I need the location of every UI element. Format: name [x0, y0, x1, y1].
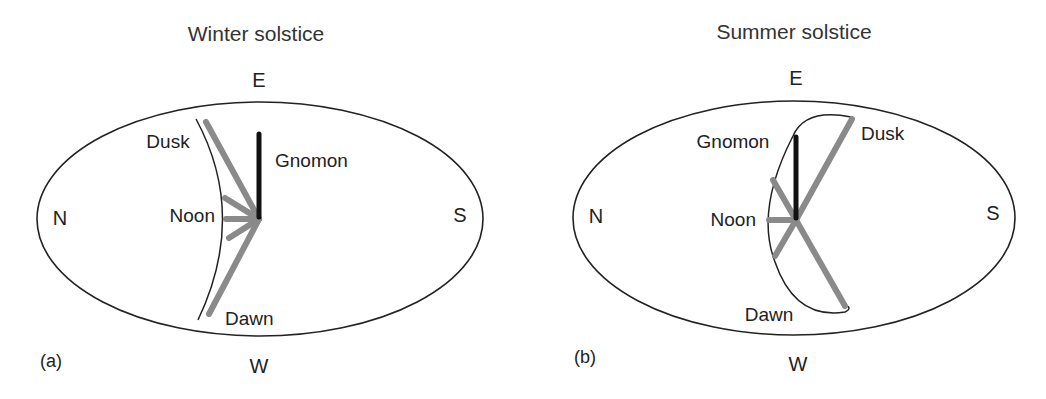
label-dawn: Dawn — [745, 304, 794, 325]
label-dusk: Dusk — [861, 123, 905, 144]
direction-north: N — [53, 207, 67, 229]
direction-west: W — [789, 353, 808, 375]
panel-title: Winter solstice — [188, 22, 325, 45]
shadow-dusk — [796, 119, 852, 220]
panel-winter-solstice: Winter solstice E W N S (a) Dusk Gnomon … — [37, 22, 483, 377]
panel-title: Summer solstice — [716, 20, 871, 43]
label-noon: Noon — [170, 205, 215, 226]
direction-south: S — [986, 202, 999, 224]
panel-summer-solstice: Summer solstice E W N S (b) Gnomon Dusk … — [573, 20, 1015, 375]
panel-label: (a) — [40, 351, 62, 371]
shadow-dawn — [796, 220, 845, 306]
label-dawn: Dawn — [225, 308, 274, 329]
label-dusk: Dusk — [146, 131, 190, 152]
solstice-sundial-diagram: Winter solstice E W N S (a) Dusk Gnomon … — [0, 0, 1046, 399]
direction-east: E — [252, 69, 265, 91]
shadow-afternoon — [773, 180, 796, 220]
shadow-morning — [775, 220, 796, 256]
label-gnomon: Gnomon — [697, 131, 770, 152]
direction-east: E — [789, 67, 802, 89]
direction-north: N — [589, 205, 603, 227]
direction-south: S — [453, 204, 466, 226]
label-noon: Noon — [711, 209, 756, 230]
panel-label: (b) — [574, 347, 596, 367]
direction-west: W — [250, 355, 269, 377]
label-gnomon: Gnomon — [275, 150, 348, 171]
